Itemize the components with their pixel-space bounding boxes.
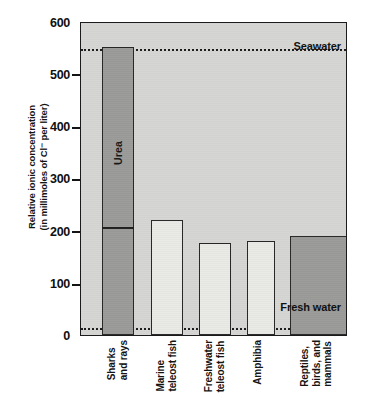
x-axis-category-labels: Sharks and rays Marine teleost fish Fres… bbox=[80, 340, 347, 409]
x-label-reptiles-birds-mammals: Reptiles, birds, and mammals bbox=[299, 340, 334, 387]
x-label-amphibia: Amphibia bbox=[252, 340, 264, 385]
x-label-marine-teleost-fish: Marine teleost fish bbox=[155, 340, 178, 392]
bar-marine-teleost-fish[interactable] bbox=[151, 220, 183, 335]
reference-label-fresh-water: Fresh water bbox=[280, 301, 341, 314]
reference-label-seawater: Seawater bbox=[293, 40, 341, 53]
y-tick-label-400: 400 bbox=[24, 120, 70, 134]
y-tick-label-100: 100 bbox=[24, 277, 70, 291]
bar-amphibia[interactable] bbox=[247, 241, 275, 335]
y-tick-label-200: 200 bbox=[24, 225, 70, 239]
y-tick-label-300: 300 bbox=[24, 172, 70, 186]
y-axis-title: Relative ionic concentration (in millimo… bbox=[26, 52, 50, 282]
x-label-freshwater-teleost-fish: Freshwater teleost fish bbox=[203, 340, 226, 392]
urea-segment-divider bbox=[102, 227, 135, 229]
bar-sharks-and-rays[interactable]: Urea bbox=[102, 47, 134, 335]
x-label-sharks-and-rays: Sharks and rays bbox=[106, 340, 129, 380]
plot-area: Urea Seawater Fresh water bbox=[80, 22, 347, 336]
y-tick-label-0: 0 bbox=[24, 329, 70, 343]
y-tick-label-500: 500 bbox=[24, 68, 70, 82]
y-tick-label-600: 600 bbox=[24, 16, 70, 30]
chart-figure: Relative ionic concentration (in millimo… bbox=[0, 0, 365, 409]
bar-reptiles-birds-mammals[interactable] bbox=[290, 236, 347, 335]
urea-segment-label: Urea bbox=[112, 141, 124, 165]
bar-freshwater-teleost-fish[interactable] bbox=[199, 243, 231, 335]
